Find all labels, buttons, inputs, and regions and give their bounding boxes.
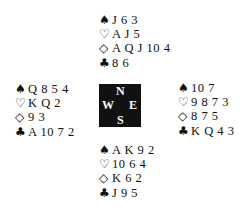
west-spades-row: ♠Q 8 5 4	[15, 82, 75, 96]
east-clubs: K Q 4 3	[191, 124, 234, 138]
diamond-icon: ◇	[99, 41, 112, 55]
east-diamonds: 8 7 5	[191, 109, 219, 123]
spade-icon: ♠	[99, 143, 112, 157]
south-clubs: J 9 5	[112, 186, 138, 200]
compass-west: W	[102, 99, 114, 111]
spade-icon: ♠	[15, 82, 28, 96]
south-spades: A K 9 2	[112, 143, 155, 157]
club-icon: ♣	[178, 124, 191, 138]
diamond-icon: ◇	[99, 171, 112, 185]
north-hearts-row: ♡A J 5	[99, 27, 170, 41]
west-hand: ♠Q 8 5 4 ♡K Q 2 ◇9 3 ♣A 10 7 2	[15, 82, 75, 139]
compass-south: S	[117, 114, 124, 126]
south-spades-row: ♠A K 9 2	[99, 143, 155, 157]
heart-icon: ♡	[178, 95, 191, 109]
west-hearts: K Q 2	[28, 96, 61, 110]
compass-north: N	[116, 85, 125, 97]
north-hearts: A J 5	[112, 27, 140, 41]
east-hearts-row: ♡9 8 7 3	[178, 95, 234, 109]
compass-box: N W E S	[99, 84, 141, 127]
south-hand: ♠A K 9 2 ♡10 6 4 ◇K 6 2 ♣J 9 5	[99, 143, 155, 200]
east-hearts: 9 8 7 3	[191, 95, 229, 109]
south-diamonds: K 6 2	[112, 171, 142, 185]
north-diamonds-row: ◇A Q J 10 4	[99, 41, 170, 55]
south-diamonds-row: ◇K 6 2	[99, 171, 155, 185]
club-icon: ♣	[99, 186, 112, 200]
west-hearts-row: ♡K Q 2	[15, 96, 75, 110]
north-clubs-row: ♣8 6	[99, 56, 170, 70]
west-spades: Q 8 5 4	[28, 82, 69, 96]
compass-east: E	[129, 99, 137, 111]
north-clubs: 8 6	[112, 56, 129, 70]
diamond-icon: ◇	[15, 110, 28, 124]
east-spades: 10 7	[191, 81, 215, 95]
diamond-icon: ◇	[178, 109, 191, 123]
north-spades: J 6 3	[112, 13, 138, 27]
club-icon: ♣	[99, 56, 112, 70]
north-diamonds: A Q J 10 4	[112, 41, 170, 55]
west-diamonds: 9 3	[28, 110, 45, 124]
south-clubs-row: ♣J 9 5	[99, 186, 155, 200]
east-hand: ♠10 7 ♡9 8 7 3 ◇8 7 5 ♣K Q 4 3	[178, 81, 234, 138]
heart-icon: ♡	[99, 27, 112, 41]
east-spades-row: ♠10 7	[178, 81, 234, 95]
spade-icon: ♠	[178, 81, 191, 95]
north-hand: ♠J 6 3 ♡A J 5 ◇A Q J 10 4 ♣8 6	[99, 13, 170, 70]
west-clubs: A 10 7 2	[28, 125, 75, 139]
west-diamonds-row: ◇9 3	[15, 110, 75, 124]
south-hearts-row: ♡10 6 4	[99, 157, 155, 171]
west-clubs-row: ♣A 10 7 2	[15, 125, 75, 139]
heart-icon: ♡	[15, 96, 28, 110]
spade-icon: ♠	[99, 13, 112, 27]
south-hearts: 10 6 4	[112, 157, 146, 171]
east-diamonds-row: ◇8 7 5	[178, 109, 234, 123]
club-icon: ♣	[15, 125, 28, 139]
heart-icon: ♡	[99, 157, 112, 171]
east-clubs-row: ♣K Q 4 3	[178, 124, 234, 138]
north-spades-row: ♠J 6 3	[99, 13, 170, 27]
